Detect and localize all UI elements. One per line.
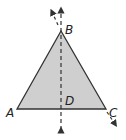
label-D: D: [65, 94, 74, 108]
label-B: B: [65, 23, 73, 37]
triangle-diagram: B A C D: [0, 0, 126, 140]
dashed-extension-upper: [52, 12, 58, 25]
label-C: C: [109, 106, 118, 120]
label-A: A: [5, 106, 14, 120]
